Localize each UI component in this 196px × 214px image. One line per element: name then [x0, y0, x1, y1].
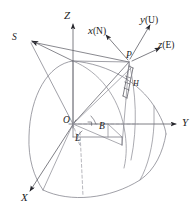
ray-s-to-origin: [31, 43, 73, 124]
ray-s-from-pole: [32, 41, 73, 61]
axis-label-x: X: [21, 192, 28, 203]
meridian-arc-left: [29, 61, 73, 190]
local-axis-label-y: y(U): [140, 14, 158, 26]
point-label-p: P: [126, 51, 132, 61]
local-axis-z-paren: (E): [162, 40, 174, 50]
p-meridian-curve-inner: [73, 61, 126, 168]
p-meridian-curve: [129, 62, 135, 160]
angle-label-b: B: [99, 122, 105, 132]
origin-to-x-corner: [43, 124, 73, 190]
local-axis-y-paren: (U): [145, 15, 158, 25]
axis-label-z: Z: [64, 10, 70, 21]
local-axis-x-north: [106, 35, 128, 60]
axis-label-y: Y: [182, 117, 188, 128]
point-label-s: S: [12, 33, 17, 43]
point-label-o: O: [63, 116, 70, 126]
geodetic-coordinate-diagram: Z Y X S P O B L H x(N) y(U) z(E): [0, 0, 196, 214]
equator-arc: [43, 134, 166, 198]
axis-x-line: [30, 120, 76, 191]
right-lower-meridian: [140, 124, 154, 180]
dashed-vertical-axis: [80, 132, 83, 196]
segment-label-h: H: [133, 80, 139, 88]
local-axis-x-paren: (N): [93, 26, 106, 36]
meridian-arc-right: [73, 61, 166, 134]
proj-box-diag: [108, 124, 122, 137]
local-axis-label-x: x(N): [88, 25, 106, 37]
angle-label-l: L: [75, 134, 80, 144]
origin-to-p-aux-line: [73, 68, 131, 124]
local-axis-label-z: z(E): [158, 39, 174, 51]
local-axis-z-east: [132, 48, 160, 61]
